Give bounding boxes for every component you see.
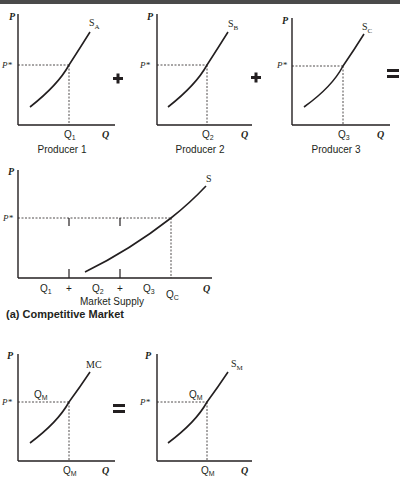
q-axis-label: Q bbox=[102, 465, 109, 476]
supply-curve-c bbox=[304, 34, 364, 107]
q-label: Q3 bbox=[338, 129, 350, 141]
market-supply-graph: P P* S Q1 + Q2 + Q3 QC Q Market Supply bbox=[2, 166, 212, 307]
producer-caption: Producer 1 bbox=[38, 144, 87, 155]
producer-caption: Producer 2 bbox=[176, 144, 225, 155]
q-label: QM bbox=[201, 465, 215, 477]
equals-operator bbox=[387, 69, 399, 78]
q-axis-label: Q bbox=[241, 465, 248, 476]
supply-curve-a bbox=[30, 32, 90, 107]
q-label: Q2 bbox=[202, 129, 214, 141]
p-star-label: P* bbox=[139, 397, 150, 407]
point-label: QM bbox=[34, 389, 48, 401]
plus-term: + bbox=[66, 283, 72, 294]
producer-3-graph: P P* SC Q3 Q Producer 3 bbox=[276, 15, 390, 155]
p-axis-label: P bbox=[8, 166, 15, 177]
q-term: Q2 bbox=[92, 283, 104, 295]
q-axis-label: Q bbox=[102, 129, 109, 140]
equals-operator bbox=[113, 404, 125, 413]
q-axis-label: Q bbox=[377, 129, 384, 140]
curve-label: MC bbox=[86, 359, 102, 370]
p-axis-label: P bbox=[145, 350, 152, 361]
p-star-label: P* bbox=[1, 397, 12, 407]
p-star-label: P* bbox=[276, 60, 287, 70]
supply-curve-b bbox=[168, 32, 228, 107]
p-star-label: P* bbox=[1, 60, 12, 70]
plus-operator bbox=[113, 74, 123, 84]
curve-label: SC bbox=[362, 21, 373, 35]
producer-2-graph: P P* SB Q2 Q Producer 2 bbox=[139, 11, 252, 155]
p-axis-label: P bbox=[9, 11, 16, 22]
producer-1-graph: P P* SA Q1 Q Producer 1 bbox=[1, 11, 115, 155]
q-axis-label: Q bbox=[203, 283, 210, 294]
mc-curve bbox=[30, 372, 90, 443]
q-term: Q1 bbox=[40, 283, 52, 295]
monopoly-supply-curve bbox=[168, 372, 228, 443]
curve-label: S bbox=[206, 173, 212, 184]
q-term: Q3 bbox=[143, 283, 155, 295]
p-axis-label: P bbox=[7, 350, 14, 361]
q-label: QM bbox=[63, 465, 77, 477]
curve-label: SA bbox=[89, 17, 100, 31]
qc-label: QC bbox=[166, 289, 179, 301]
plus-operator bbox=[251, 73, 261, 83]
q-axis-label: Q bbox=[241, 129, 248, 140]
q-label: Q1 bbox=[64, 129, 76, 141]
p-star-label: P* bbox=[2, 213, 13, 223]
point-label: QM bbox=[189, 389, 203, 401]
supply-diagram: P P* SA Q1 Q Producer 1 P P* SB Q2 Q Pro… bbox=[0, 0, 400, 478]
monopoly-mc-graph: P P* MC QM QM Q bbox=[1, 350, 115, 477]
curve-label: SM bbox=[231, 358, 244, 372]
p-star-label: P* bbox=[139, 60, 150, 70]
market-caption: Market Supply bbox=[80, 296, 144, 307]
producer-caption: Producer 3 bbox=[312, 144, 361, 155]
p-axis-label: P bbox=[282, 15, 289, 26]
plus-term: + bbox=[117, 283, 123, 294]
p-axis-label: P bbox=[147, 11, 154, 22]
monopoly-supply-graph: P P* SM QM QM Q bbox=[139, 350, 252, 477]
market-supply-curve bbox=[85, 186, 206, 272]
section-title: (a) Competitive Market bbox=[6, 308, 124, 320]
curve-label: SB bbox=[228, 18, 239, 32]
